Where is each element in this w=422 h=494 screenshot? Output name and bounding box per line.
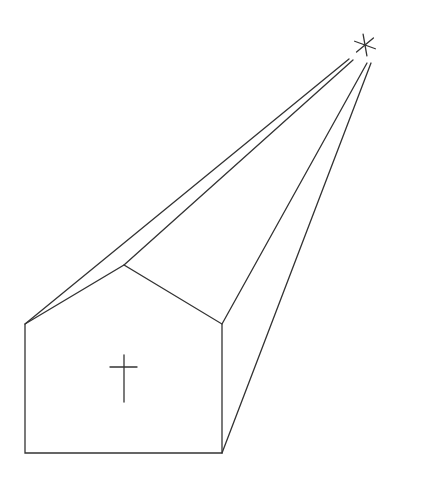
perspective-drawing <box>0 0 422 494</box>
base-right-edge <box>222 63 371 453</box>
cross-icon <box>110 355 137 402</box>
star-icon <box>355 34 376 56</box>
roof-right-edge <box>222 63 367 324</box>
roof-left-edge <box>25 59 349 324</box>
roof-ridge-line <box>124 60 353 265</box>
